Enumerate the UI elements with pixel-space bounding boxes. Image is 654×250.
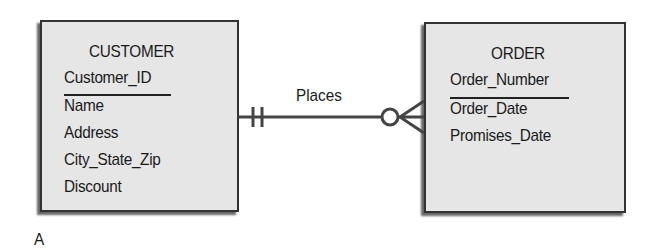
figure-caption: A [34, 230, 44, 250]
crows-foot-upper [400, 101, 424, 117]
relationship-connector [0, 0, 654, 250]
zero-optional-circle [382, 109, 398, 125]
relationship-label: Places [296, 86, 342, 106]
crows-foot-lower [400, 117, 424, 133]
